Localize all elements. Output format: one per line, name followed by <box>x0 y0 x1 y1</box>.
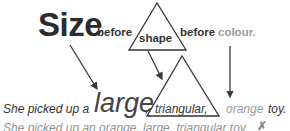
sentence-suffix: toy. <box>268 102 286 116</box>
cross-mark-icon: ✗ <box>257 119 267 131</box>
word-before-2: before <box>180 26 215 38</box>
sentence-prefix: She picked up a <box>3 102 89 116</box>
word-size: Size <box>38 8 102 41</box>
sentence-colour-word: orange <box>226 102 263 116</box>
word-colour: colour. <box>218 26 256 38</box>
example-incorrect-sentence: She picked up an orange, large, triangul… <box>3 121 248 131</box>
arrow-size <box>70 45 97 89</box>
word-shape: shape <box>139 32 172 44</box>
sentence-comma: , <box>145 102 148 116</box>
sentence-shape-word: triangular, <box>155 102 208 116</box>
word-before-1: before <box>97 26 132 38</box>
arrow-shape <box>148 51 162 79</box>
